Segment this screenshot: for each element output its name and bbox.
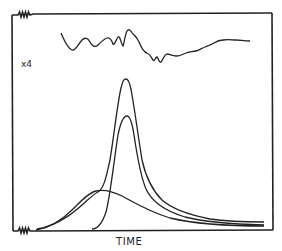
frame-right xyxy=(272,13,273,230)
narrow-peak-trace xyxy=(92,116,264,229)
frame xyxy=(12,12,273,233)
figure: x4 TIME xyxy=(0,0,282,251)
frame-top xyxy=(12,12,272,17)
baseline-noise-trace xyxy=(61,30,250,62)
x-axis-label: TIME xyxy=(115,236,142,247)
magnification-label: x4 xyxy=(21,59,32,69)
frame-left xyxy=(12,15,13,231)
frame-bottom xyxy=(13,228,273,233)
composite-peak-trace xyxy=(37,79,264,229)
